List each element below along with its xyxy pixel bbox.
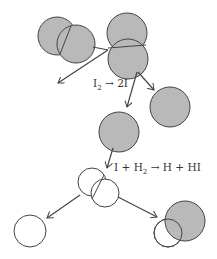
- reaction-diagram: [0, 0, 217, 259]
- h2-molecule: [78, 168, 119, 207]
- reaction-label-exchange: I + H2 → H + HI: [114, 161, 201, 176]
- iodine-atom-right: [150, 87, 190, 127]
- arrow-atom-right: [138, 72, 154, 90]
- arrow-to-h-atom: [47, 195, 80, 218]
- collision-line: [93, 47, 108, 50]
- colliding-i2-molecule: [107, 13, 148, 79]
- iodine-atom-center: [99, 112, 139, 152]
- reaction-label-dissociation: I2 → 2I: [93, 77, 128, 92]
- hi-molecule: [154, 201, 205, 247]
- arrow-to-h2: [107, 148, 113, 168]
- hydrogen-atom: [14, 215, 46, 247]
- incoming-i2-molecule: [38, 17, 95, 63]
- arrow-to-hi: [118, 197, 157, 217]
